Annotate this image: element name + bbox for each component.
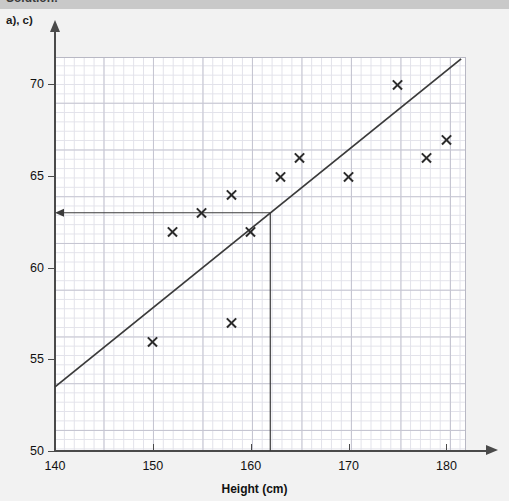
plot-area — [55, 57, 466, 451]
y-tick-55 — [48, 359, 55, 360]
y-tick-60 — [48, 268, 55, 269]
data-point-marker — [244, 225, 257, 238]
cut-off-heading-band: Solution: — [0, 0, 509, 9]
x-tick-140 — [55, 444, 56, 451]
x-tick-180 — [446, 444, 447, 451]
data-point-marker — [293, 151, 306, 164]
x-axis-title: Height (cm) — [0, 482, 509, 496]
y-tick-label-70: 70 — [0, 77, 44, 91]
data-point-marker — [195, 206, 208, 219]
x-tick-label-160: 160 — [226, 459, 276, 473]
x-tick-label-170: 170 — [324, 459, 374, 473]
data-point-marker — [225, 316, 238, 329]
x-tick-label-180: 180 — [421, 459, 471, 473]
data-point-marker — [166, 225, 179, 238]
major-gridlines — [55, 57, 466, 451]
x-axis-arrowhead-icon — [486, 445, 498, 455]
y-tick-label-50: 50 — [0, 444, 44, 458]
page-canvas: Solution: a), c) 50556065701401501601701… — [0, 0, 509, 501]
y-tick-50 — [48, 451, 55, 452]
data-point-marker — [420, 151, 433, 164]
data-point-marker — [342, 170, 355, 183]
x-tick-170 — [349, 444, 350, 451]
data-point-marker — [146, 335, 159, 348]
x-tick-label-140: 140 — [30, 459, 80, 473]
x-tick-label-150: 150 — [128, 459, 178, 473]
x-tick-160 — [251, 444, 252, 451]
y-tick-65 — [48, 176, 55, 177]
y-tick-70 — [48, 84, 55, 85]
figure-caption: a), c) — [6, 14, 33, 26]
x-tick-150 — [153, 444, 154, 451]
data-point-marker — [391, 78, 404, 91]
x-axis-line — [54, 450, 488, 452]
y-axis-arrowhead-icon — [50, 20, 60, 32]
partial-heading-text: Solution: — [6, 0, 58, 5]
y-axis-line — [54, 30, 56, 451]
y-tick-label-65: 65 — [0, 169, 44, 183]
y-tick-label-55: 55 — [0, 352, 44, 366]
y-tick-label-60: 60 — [0, 261, 44, 275]
data-point-marker — [225, 188, 238, 201]
data-point-marker — [274, 170, 287, 183]
data-point-marker — [440, 133, 453, 146]
